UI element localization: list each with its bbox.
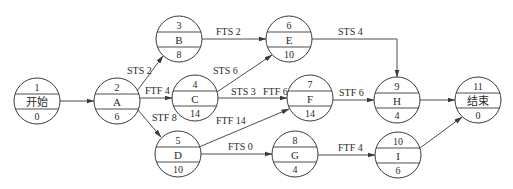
edge-i-to-end	[420, 117, 462, 148]
label-c-f-ftf: FTF 6	[263, 86, 288, 97]
node-3-b: 3 B 8	[156, 16, 202, 62]
node-number: 5	[176, 135, 181, 146]
node-name: C	[191, 93, 198, 105]
label-c-e: STS 6	[213, 65, 238, 76]
node-duration: 0	[35, 111, 40, 122]
node-number: 8	[293, 135, 298, 146]
node-name: H	[393, 95, 401, 107]
node-8-g: 8 G 4	[272, 131, 318, 177]
label-a-d: STF 8	[152, 112, 177, 123]
node-number: 4	[193, 79, 198, 90]
node-duration: 4	[395, 110, 400, 121]
node-duration: 6	[115, 111, 120, 122]
edge-e-to-h	[312, 39, 397, 77]
node-number: 2	[115, 82, 120, 93]
node-duration: 10	[284, 49, 294, 60]
node-4-c: 4 C 14	[172, 75, 218, 121]
label-f-h: STF 6	[339, 87, 364, 98]
node-number: 7	[308, 79, 313, 90]
node-number: 1	[35, 82, 40, 93]
node-name: A	[113, 96, 121, 108]
node-name: F	[307, 93, 313, 105]
node-name: D	[174, 149, 182, 161]
node-number: 3	[177, 20, 182, 31]
node-number: 6	[287, 20, 292, 31]
node-name: E	[286, 34, 293, 46]
node-duration: 0	[476, 110, 481, 121]
network-diagram: STS 2 FTF 4 STF 8 FTS 2 STS 6 STS 3 FTF …	[0, 0, 513, 189]
label-c-f-sts: STS 3	[231, 86, 256, 97]
node-number: 11	[473, 81, 483, 92]
node-name: B	[175, 34, 182, 46]
label-g-i: FTF 4	[338, 142, 363, 153]
label-d-f: FTF 14	[216, 115, 246, 126]
node-10-i: 10 I 6	[375, 132, 421, 178]
node-name: 结束	[467, 95, 489, 107]
label-a-b: STS 2	[127, 65, 152, 76]
node-1-start: 1 开始 0	[14, 78, 60, 124]
node-5-d: 5 D 10	[155, 131, 201, 177]
node-number: 9	[395, 81, 400, 92]
node-6-e: 6 E 10	[266, 16, 312, 62]
node-9-h: 9 H 4	[374, 77, 420, 123]
label-e-h: STS 4	[338, 26, 363, 37]
node-11-end: 11 结束 0	[455, 77, 501, 123]
node-duration: 6	[396, 165, 401, 176]
node-7-f: 7 F 14	[287, 75, 333, 121]
node-2-a: 2 A 6	[94, 78, 140, 124]
node-name: I	[396, 150, 400, 162]
node-duration: 14	[190, 108, 200, 119]
label-a-c: FTF 4	[145, 85, 170, 96]
node-name: 开始	[26, 95, 48, 108]
label-d-g: FTS 0	[228, 141, 253, 152]
label-b-e: FTS 2	[216, 26, 241, 37]
node-duration: 4	[293, 164, 298, 175]
node-duration: 14	[305, 108, 315, 119]
node-name: G	[291, 149, 299, 161]
node-number: 10	[393, 136, 403, 147]
node-duration: 10	[173, 164, 183, 175]
node-duration: 8	[177, 49, 182, 60]
